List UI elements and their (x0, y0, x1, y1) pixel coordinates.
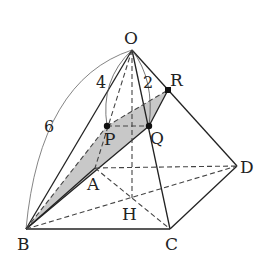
edge-ba (26, 168, 95, 229)
label-d: D (240, 157, 254, 177)
measure-label-op: 4 (96, 73, 106, 92)
pyramid-diagram: O A B C D H P Q R 6 4 2 (0, 0, 266, 258)
label-p: P (104, 129, 115, 149)
edge-ad (95, 166, 237, 168)
label-r: R (170, 70, 184, 90)
label-b: B (17, 234, 30, 254)
label-q: Q (150, 128, 164, 148)
label-h: H (122, 204, 137, 224)
diagram-svg: O A B C D H P Q R 6 4 2 (0, 0, 266, 258)
measure-label-oq: 2 (143, 73, 153, 92)
label-a: A (86, 174, 100, 194)
label-c: C (165, 234, 178, 254)
label-o: O (124, 28, 138, 48)
measure-label-ob: 6 (44, 117, 54, 136)
